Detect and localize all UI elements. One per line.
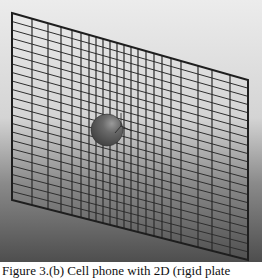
figure-caption: Figure 3.(b) Cell phone with 2D (rigid p… — [2, 262, 262, 280]
mesh-grid-figure — [0, 0, 262, 262]
